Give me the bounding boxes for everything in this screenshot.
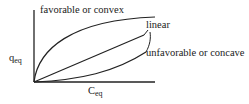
y-axis-subscript: eq bbox=[14, 56, 22, 65]
y-axis-label: qeq bbox=[9, 53, 22, 65]
convex-label: favorable or convex bbox=[40, 5, 124, 16]
concave-label: unfavorable or concave bbox=[146, 48, 245, 59]
isotherm-diagram: favorable or convex linear unfavorable o… bbox=[0, 0, 249, 104]
linear-label: linear bbox=[146, 20, 170, 31]
concave-curve bbox=[34, 52, 146, 82]
x-axis-subscript: eq bbox=[95, 89, 103, 98]
convex-curve bbox=[34, 17, 155, 82]
x-axis-symbol: C bbox=[88, 85, 95, 96]
linear-leader bbox=[144, 30, 148, 35]
x-axis-label: Ceq bbox=[88, 86, 103, 98]
